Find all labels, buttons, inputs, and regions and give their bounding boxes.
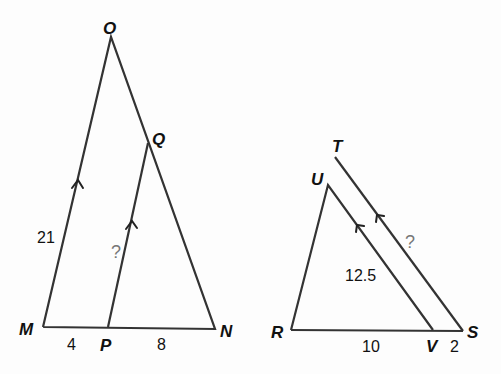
figure: O Q M P N 21 4 8 ? T U R V S 12.5 10 2 ?	[0, 0, 501, 374]
length-mp: 4	[67, 336, 76, 353]
length-vs: 2	[450, 338, 459, 355]
vertex-label-v: V	[426, 337, 439, 356]
triangle-omn: O Q M P N 21 4 8 ?	[19, 19, 233, 355]
vertex-label-m: M	[19, 320, 34, 339]
vertex-label-r: R	[271, 323, 284, 342]
vertex-label-t: T	[332, 137, 344, 156]
vertex-label-n: N	[220, 322, 233, 341]
unknown-ts: ?	[405, 232, 415, 252]
vertex-label-u: U	[311, 170, 324, 189]
vertex-label-s: S	[467, 323, 479, 342]
vertex-label-p: P	[100, 336, 112, 355]
triangle-trs: T U R V S 12.5 10 2 ?	[271, 137, 479, 356]
length-uv: 12.5	[345, 267, 376, 284]
vertex-label-o: O	[103, 19, 116, 38]
unknown-pq: ?	[111, 242, 121, 262]
vertex-label-q: Q	[152, 130, 165, 149]
length-om: 21	[37, 229, 55, 246]
parallel-arrow-icon	[126, 221, 137, 229]
length-pn: 8	[157, 336, 166, 353]
length-rv: 10	[362, 338, 380, 355]
